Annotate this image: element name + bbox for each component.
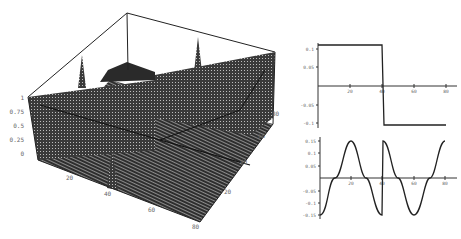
surface-spike (78, 55, 86, 88)
x-tick: 40 (379, 89, 385, 94)
x-tick: 60 (148, 206, 156, 213)
y-tick: 0.05 (305, 164, 316, 169)
y-tick: -0.15 (302, 213, 316, 218)
y-tick: 20 (224, 188, 232, 195)
x-tick: 20 (348, 181, 354, 186)
z-tick: 0 (20, 150, 24, 157)
sine-wave-canvas: 0.15 0.1 0.05 -0.05 -0.1 -0.15 20 40 60 … (300, 133, 461, 228)
surface-spike (194, 37, 202, 72)
x-tick: 60 (411, 181, 417, 186)
y-tick: 40 (240, 158, 248, 165)
x-tick: 20 (347, 89, 353, 94)
y-tick: 0.1 (306, 47, 314, 52)
x-tick: 40 (104, 190, 112, 197)
x-tick: 60 (411, 89, 417, 94)
y-tick: -0.1 (305, 201, 316, 206)
y-tick: 0.15 (305, 139, 316, 144)
y-tick: -0.05 (300, 103, 314, 108)
y-tick: 80 (272, 110, 280, 117)
z-tick: 0.25 (10, 136, 25, 143)
y-tick: 60 (258, 132, 266, 139)
x-tick: 80 (442, 181, 448, 186)
surface-plot: 1 0.75 0.5 0.25 0 20 40 60 80 20 40 60 8… (0, 0, 290, 239)
sine-wave-plot: 0.15 0.1 0.05 -0.05 -0.1 -0.15 20 40 60 … (300, 133, 461, 228)
square-wave-canvas: 0.1 0.05 -0.05 -0.1 20 40 60 80 (300, 35, 461, 130)
x-tick: 80 (443, 89, 449, 94)
surface-plot-canvas: 1 0.75 0.5 0.25 0 20 40 60 80 20 40 60 8… (0, 0, 290, 239)
y-tick: -0.05 (302, 189, 316, 194)
z-tick: 1 (20, 94, 24, 101)
y-tick: 0.1 (308, 151, 316, 156)
x-tick: 80 (192, 223, 200, 230)
y-tick: 0.05 (303, 65, 314, 70)
x-tick: 20 (66, 174, 74, 181)
square-wave-plot: 0.1 0.05 -0.05 -0.1 20 40 60 80 (300, 35, 461, 130)
z-tick: 0.75 (10, 108, 25, 115)
z-tick: 0.5 (13, 122, 24, 129)
y-tick: -0.1 (303, 121, 314, 126)
